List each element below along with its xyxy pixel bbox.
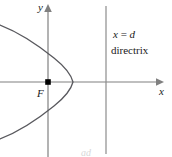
x-axis-label: x [159,86,164,97]
x-axis [0,78,164,86]
directrix-equation-equals: = [118,28,130,40]
figure-caption: ad [0,148,172,157]
focus-point-marker [45,79,51,85]
parabola-directrix-figure: y x F x = d directrix ad [0,0,172,157]
y-axis-arrowhead-icon [44,4,52,12]
directrix-equation-value: d [130,28,136,40]
directrix-word-label: directrix [111,45,148,56]
directrix-equation-label: x = d [113,29,135,40]
y-axis-label: y [38,2,43,13]
focus-label: F [37,88,44,99]
figure-canvas [0,0,172,157]
